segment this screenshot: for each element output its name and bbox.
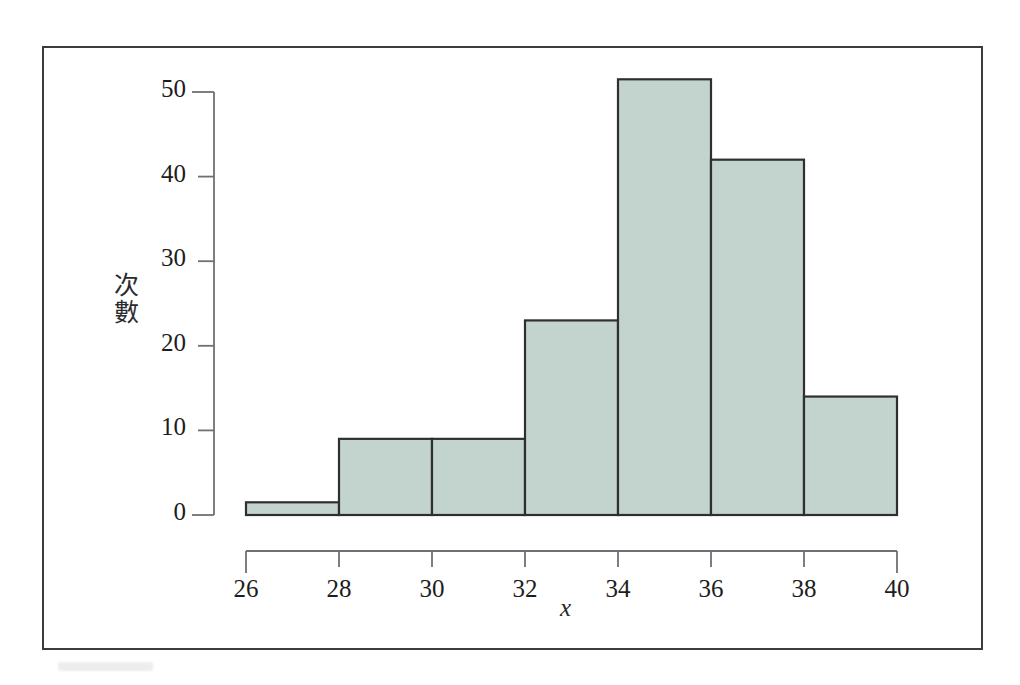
figure-root: 次數 x 010203040502628303234363840 (0, 0, 1020, 685)
y-tick-label: 50 (140, 75, 186, 103)
x-tick-label: 28 (314, 575, 364, 603)
bars-group (246, 79, 897, 515)
histogram-bar (804, 397, 897, 515)
x-tick-label: 32 (500, 575, 550, 603)
x-tick-label: 26 (221, 575, 271, 603)
y-tick-label: 20 (140, 329, 186, 357)
histogram-bar (432, 439, 525, 515)
histogram-bar (339, 439, 432, 515)
y-tick-label: 40 (140, 160, 186, 188)
y-tick-label: 10 (140, 413, 186, 441)
x-tick-label: 30 (407, 575, 457, 603)
histogram-bar (525, 320, 618, 515)
y-axis-line (192, 92, 214, 515)
y-tick-label: 0 (140, 498, 186, 526)
y-tick-label: 30 (140, 244, 186, 272)
x-tick-label: 34 (593, 575, 643, 603)
x-tick-label: 38 (779, 575, 829, 603)
histogram-bar (246, 502, 339, 515)
x-tick-label: 40 (872, 575, 922, 603)
histogram-bar (618, 79, 711, 515)
x-axis-line (246, 551, 897, 573)
histogram-bar (711, 160, 804, 515)
x-tick-label: 36 (686, 575, 736, 603)
